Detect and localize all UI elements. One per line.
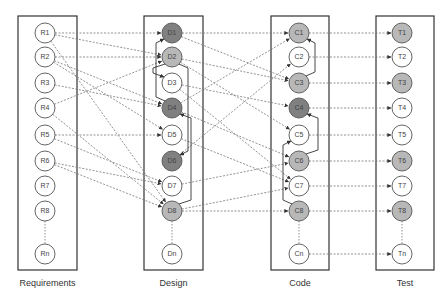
node-label-C4: C4 — [289, 98, 309, 118]
trace-link-D7-C6 — [182, 163, 288, 184]
node-label-D8: D8 — [162, 201, 182, 221]
node-label-T4: T4 — [392, 98, 412, 118]
column-label-test: Test — [355, 278, 447, 288]
node-label-D6: D6 — [162, 151, 182, 171]
node-label-C7: C7 — [289, 176, 309, 196]
node-label-D7: D7 — [162, 176, 182, 196]
node-label-T7: T7 — [392, 176, 412, 196]
node-label-C8: C8 — [289, 201, 309, 221]
column-label-code: Code — [250, 278, 350, 288]
node-label-T3: T3 — [392, 73, 412, 93]
node-label-T2: T2 — [392, 47, 412, 67]
node-label-C5: C5 — [289, 125, 309, 145]
node-label-C3: C3 — [289, 73, 309, 93]
node-label-D1: D1 — [162, 23, 182, 43]
trace-link-D3-C7 — [180, 89, 291, 179]
node-label-D4: D4 — [162, 98, 182, 118]
trace-link-D6-C2 — [180, 64, 291, 155]
trace-link-R3-D4 — [55, 85, 161, 106]
node-label-R8: R8 — [35, 201, 55, 221]
node-label-T6: T6 — [392, 151, 412, 171]
node-label-C6: C6 — [289, 151, 309, 171]
node-label-R6: R6 — [35, 151, 55, 171]
node-label-R2: R2 — [35, 47, 55, 67]
traceability-diagram — [0, 0, 447, 298]
node-label-R4: R4 — [35, 98, 55, 118]
node-label-C1: C1 — [289, 23, 309, 43]
node-label-T5: T5 — [392, 125, 412, 145]
trace-links — [51, 33, 391, 254]
trace-link-D2-C3 — [182, 59, 288, 81]
trace-link-R1-D2 — [55, 35, 161, 55]
column-label-req: Requirements — [0, 278, 98, 288]
node-label-Dn: Dn — [162, 244, 182, 264]
node-label-T8: T8 — [392, 201, 412, 221]
node-label-D3: D3 — [162, 73, 182, 93]
node-label-R7: R7 — [35, 176, 55, 196]
node-label-D5: D5 — [162, 125, 182, 145]
trace-link-D8-C7 — [182, 188, 288, 209]
trace-link-D4-C1 — [181, 39, 290, 103]
trace-link-D5-C7 — [181, 139, 289, 182]
trace-link-R5-D7 — [54, 139, 162, 182]
column-label-des: Design — [124, 278, 224, 288]
nodes — [35, 23, 412, 264]
node-label-R1: R1 — [35, 23, 55, 43]
node-label-R5: R5 — [35, 125, 55, 145]
trace-link-R1-D8 — [51, 41, 166, 202]
node-label-R3: R3 — [35, 73, 55, 93]
node-label-Rn: Rn — [35, 244, 55, 264]
trace-link-R6-D8 — [54, 165, 161, 207]
trace-link-R4-D8 — [53, 114, 164, 204]
column-boxes — [18, 16, 434, 270]
node-label-D2: D2 — [162, 47, 182, 67]
trace-link-D1-C3 — [181, 37, 288, 79]
node-label-T1: T1 — [392, 23, 412, 43]
node-label-Tn: Tn — [392, 244, 412, 264]
trace-link-D3-C4 — [182, 85, 288, 106]
node-label-Cn: Cn — [289, 244, 309, 264]
node-label-C2: C2 — [289, 47, 309, 67]
